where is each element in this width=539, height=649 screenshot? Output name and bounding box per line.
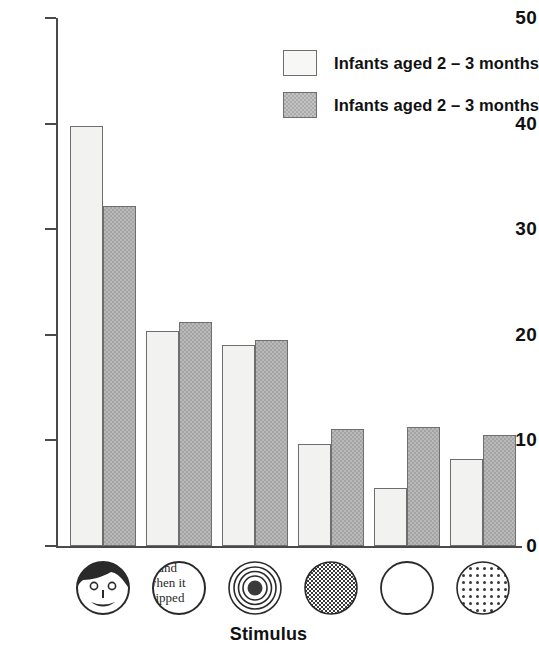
y-tick-20 [45,334,56,336]
dark-swatch [283,92,317,118]
light-swatch [283,50,317,76]
y-tick-10 [45,439,56,441]
y-tick-30 [45,228,56,230]
bar-3-series-1 [331,429,364,546]
y-tick-50 [45,17,56,19]
x-axis-line [56,546,522,548]
bar-5-series-1 [483,435,516,546]
bar-group-2 [222,18,288,546]
bar-4-series-0 [374,488,407,546]
bar-2-series-1 [255,340,288,546]
printed-text-icon: oundwhen ithippedre [149,558,209,618]
bar-1-series-0 [146,331,179,546]
bar-group-0 [70,18,136,546]
bar-0-series-0 [70,126,103,546]
plain-circle-icon [377,558,437,618]
x-axis-title: Stimulus [0,624,537,645]
legend-label-1: Infants aged 2 – 3 months [334,96,539,115]
dotted-circle-icon [453,558,513,618]
legend-label-0: Infants aged 2 – 3 months [334,54,539,73]
bar-0-series-1 [103,206,136,546]
face-icon [73,558,133,618]
bar-1-series-1 [179,322,212,546]
legend: Infants aged 2 – 3 months Infants aged 2… [283,50,539,134]
bar-5-series-0 [450,459,483,546]
bar-4-series-1 [407,427,440,546]
bar-group-1 [146,18,212,546]
bar-2-series-0 [222,345,255,546]
y-tick-0 [45,545,56,547]
bar-3-series-0 [298,444,331,546]
legend-item-0: Infants aged 2 – 3 months [283,50,539,76]
y-tick-40 [45,123,56,125]
checkerboard-icon [301,558,361,618]
legend-item-1: Infants aged 2 – 3 months [283,92,539,118]
bullseye-icon [225,558,285,618]
stimulus-icon-row: oundwhen ithippedre [58,558,522,620]
